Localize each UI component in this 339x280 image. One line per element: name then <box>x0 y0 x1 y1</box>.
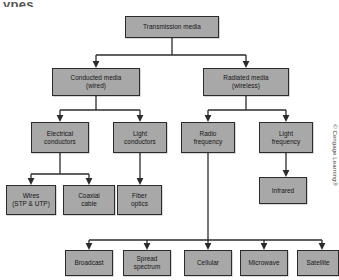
node-infrared[interactable]: Infrared <box>259 177 307 204</box>
node-radio-frequency-label: Radio frequency <box>194 130 223 145</box>
node-radiated-media[interactable]: Radiated media (wireless) <box>203 68 289 96</box>
node-radiated-media-label: Radiated media (wireless) <box>223 74 268 89</box>
node-satellite[interactable]: Satellite <box>297 250 339 276</box>
node-radio-frequency[interactable]: Radio frequency <box>181 122 235 153</box>
node-fiber-optics[interactable]: Fiber optics <box>117 185 162 215</box>
node-conducted-media-label: Conducted media (wired) <box>71 74 122 89</box>
node-transmission-media-label: Transmission media <box>143 23 201 31</box>
transmission-media-diagram: ypes <box>0 0 339 280</box>
figure-caption-fragment: ypes <box>3 0 34 7</box>
node-coaxial-cable[interactable]: Coaxial cable <box>63 185 115 215</box>
node-conducted-media[interactable]: Conducted media (wired) <box>52 68 140 96</box>
node-electrical-conductors-label: Electrical conductors <box>44 130 76 145</box>
node-light-frequency[interactable]: Light frequency <box>259 122 313 153</box>
node-wires[interactable]: Wires (STP & UTP) <box>6 185 56 215</box>
node-microwave-label: Microwave <box>249 259 280 267</box>
node-spread-spectrum-label: Spread spectrum <box>134 255 161 270</box>
node-light-conductors-label: Light conductors <box>124 130 156 145</box>
node-electrical-conductors[interactable]: Electrical conductors <box>31 122 89 153</box>
node-transmission-media[interactable]: Transmission media <box>125 16 219 38</box>
node-cellular[interactable]: Cellular <box>184 250 232 276</box>
copyright-credit: © Cengage Learning® <box>332 124 338 186</box>
node-spread-spectrum[interactable]: Spread spectrum <box>123 250 171 276</box>
node-light-conductors[interactable]: Light conductors <box>113 122 167 153</box>
node-coaxial-cable-label: Coaxial cable <box>78 192 100 207</box>
node-satellite-label: Satellite <box>306 259 329 267</box>
node-light-frequency-label: Light frequency <box>272 130 301 145</box>
node-microwave[interactable]: Microwave <box>240 250 288 276</box>
node-cellular-label: Cellular <box>197 259 219 267</box>
node-infrared-label: Infrared <box>272 187 294 195</box>
node-fiber-optics-label: Fiber optics <box>131 192 148 207</box>
node-broadcast[interactable]: Broadcast <box>65 250 113 276</box>
node-wires-label: Wires (STP & UTP) <box>12 192 50 207</box>
node-broadcast-label: Broadcast <box>74 259 103 267</box>
